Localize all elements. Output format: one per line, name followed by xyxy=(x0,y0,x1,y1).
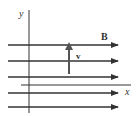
y-axis-label: y xyxy=(18,8,24,19)
magnetic-field-diagram: y x B v xyxy=(0,0,139,116)
field-label: B xyxy=(101,31,108,42)
velocity-label: v xyxy=(76,51,81,61)
x-axis-label: x xyxy=(124,86,130,97)
field-lines xyxy=(8,45,118,107)
